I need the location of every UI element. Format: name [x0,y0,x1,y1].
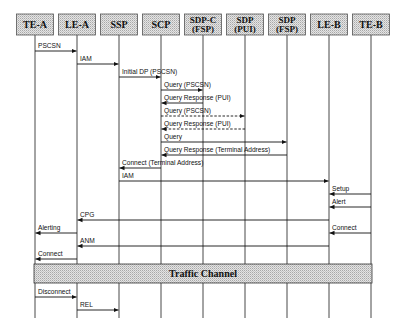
participant-scp: SCP [143,14,180,35]
sequence-diagram: Traffic Channel PSCSNIAMInitial DP (PSCS… [0,0,405,332]
participant-label: TE-A [23,19,48,30]
message-label: Connect [332,224,357,231]
participant-sdp-fsp: SDP(FSP) [269,14,306,35]
participant-label: TE-B [359,19,383,30]
message-label: REL [80,301,93,308]
participant-label: LE-B [317,19,341,30]
message-connect: Connect [330,224,372,233]
participant-label: (FSP) [276,24,298,34]
message-setup: Setup [330,185,372,194]
message-connect: Connect [36,250,78,259]
message-label: CPG [80,211,94,218]
message-initial-dp-pscsn: Initial DP (PSCSN) [119,68,177,77]
participant-sdp-pui: SDP(PUI) [227,14,264,35]
message-iam: IAM [119,172,329,181]
message-label: PSCSN [38,42,61,49]
message-pscsn: PSCSN [35,42,77,51]
message-label: Query (PSCSN) [164,107,211,115]
participant-ssp: SSP [101,14,138,35]
participant-boxes: TE-ALE-ASSPSCPSDP-C(FSP)SDP(PUI)SDP(FSP)… [17,14,390,35]
message-query: Query [161,133,287,142]
participant-te-b: TE-B [353,14,390,35]
message-label: IAM [80,55,92,62]
participant-label: (FSP) [192,24,214,34]
message-label: Initial DP (PSCSN) [122,68,177,76]
participant-label: (PUI) [234,24,256,34]
message-label: Query Response (Terminal Address) [164,146,270,154]
participant-label: LE-A [65,19,90,30]
message-label: Alerting [38,224,61,232]
participant-sdp-c-fsp: SDP-C(FSP) [185,14,222,35]
traffic-channel-band: Traffic Channel [34,264,372,283]
participant-le-b: LE-B [311,14,348,35]
message-label: Query (PSCSN) [164,81,211,89]
message-label: Disconnect [38,288,71,295]
message-label: Alert [332,198,346,205]
message-label: Query Response (PUI) [164,120,231,128]
message-label: Connect (Terminal Address) [122,159,203,167]
traffic-channel-label: Traffic Channel [169,268,237,279]
message-label: Query Response (PUI) [164,94,231,102]
message-alerting: Alerting [36,224,78,233]
message-label: Connect [38,250,63,257]
participant-label: SCP [152,19,171,30]
message-query-response-pui: Query Response (PUI) [162,94,231,103]
message-label: Query [164,133,183,141]
message-alert: Alert [330,198,372,207]
message-rel: REL [77,301,119,310]
participant-label: SSP [110,19,127,30]
message-label: IAM [122,172,134,179]
message-query-response-terminal-address: Query Response (Terminal Address) [162,146,288,155]
message-label: ANM [80,237,95,244]
message-iam: IAM [77,55,119,64]
message-disconnect: Disconnect [35,288,77,297]
participant-te-a: TE-A [17,14,54,35]
message-label: Setup [332,185,350,193]
participant-le-a: LE-A [59,14,96,35]
